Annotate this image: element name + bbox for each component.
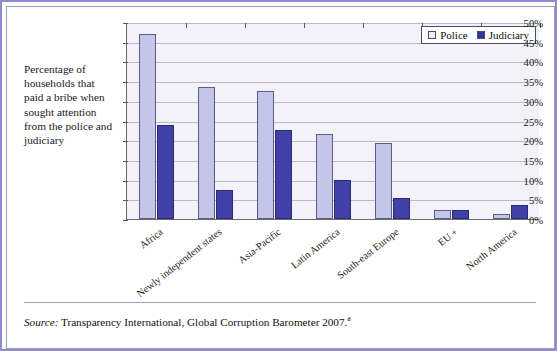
police-swatch-icon bbox=[428, 31, 436, 39]
plot-area: Police Judiciary bbox=[126, 23, 539, 220]
bar-judiciary-5 bbox=[452, 210, 470, 219]
y-axis-tick-label: 45% bbox=[509, 37, 543, 48]
y-axis-tick bbox=[123, 43, 128, 44]
x-axis-tick bbox=[304, 23, 305, 28]
y-axis-tick-label: 10% bbox=[509, 175, 543, 186]
y-axis-tick-label: 35% bbox=[509, 77, 543, 88]
bar-judiciary-3 bbox=[334, 180, 352, 219]
gridline bbox=[127, 23, 539, 24]
bar-police-2 bbox=[257, 91, 275, 219]
gridline bbox=[127, 62, 539, 63]
source-note: Source: Transparency International, Glob… bbox=[24, 312, 539, 329]
y-axis-tick-label: 0% bbox=[509, 215, 543, 226]
gridline bbox=[127, 122, 539, 123]
bar-judiciary-2 bbox=[275, 130, 293, 219]
source-prefix: Source: bbox=[24, 316, 58, 328]
y-axis-tick bbox=[123, 200, 128, 201]
y-axis-tick bbox=[123, 161, 128, 162]
legend-label-police: Police bbox=[440, 29, 468, 41]
source-text: Transparency International, Global Corru… bbox=[58, 316, 347, 328]
chart-container: Police Judiciary 0%5%10%15%20%25%30%35%4… bbox=[106, 16, 543, 231]
figure-frame: Percentage of households that paid a bri… bbox=[0, 0, 557, 351]
chart-caption: Percentage of households that paid a bri… bbox=[24, 62, 116, 147]
y-axis-tick-label: 15% bbox=[509, 155, 543, 166]
source-divider bbox=[24, 302, 536, 303]
x-axis-tick bbox=[245, 23, 246, 28]
x-axis-tick bbox=[363, 23, 364, 28]
bar-police-1 bbox=[198, 87, 216, 219]
bar-police-4 bbox=[375, 143, 393, 219]
bar-police-5 bbox=[434, 210, 452, 219]
source-footnote-marker: a bbox=[347, 314, 350, 323]
x-axis-tick bbox=[186, 23, 187, 28]
y-axis-tick-label: 50% bbox=[509, 18, 543, 29]
y-axis-tick-label: 5% bbox=[509, 195, 543, 206]
bar-police-0 bbox=[139, 34, 157, 219]
y-axis-tick-label: 30% bbox=[509, 96, 543, 107]
judiciary-swatch-icon bbox=[477, 31, 485, 39]
y-axis-tick bbox=[123, 102, 128, 103]
bar-police-6 bbox=[493, 214, 511, 219]
gridline bbox=[127, 82, 539, 83]
bar-judiciary-1 bbox=[216, 190, 234, 219]
y-axis-tick bbox=[123, 62, 128, 63]
y-axis-tick bbox=[123, 220, 128, 221]
bar-police-3 bbox=[316, 134, 334, 219]
y-axis-tick bbox=[123, 23, 128, 24]
y-axis-tick bbox=[123, 82, 128, 83]
y-axis-tick bbox=[123, 181, 128, 182]
y-axis-tick bbox=[123, 122, 128, 123]
gridline bbox=[127, 102, 539, 103]
bar-judiciary-4 bbox=[393, 198, 411, 219]
legend-entry-police: Police bbox=[428, 29, 468, 41]
y-axis-tick-label: 40% bbox=[509, 57, 543, 68]
y-axis-tick bbox=[123, 141, 128, 142]
y-axis-tick-label: 25% bbox=[509, 116, 543, 127]
y-axis-tick-label: 20% bbox=[509, 136, 543, 147]
bar-judiciary-0 bbox=[157, 125, 175, 219]
